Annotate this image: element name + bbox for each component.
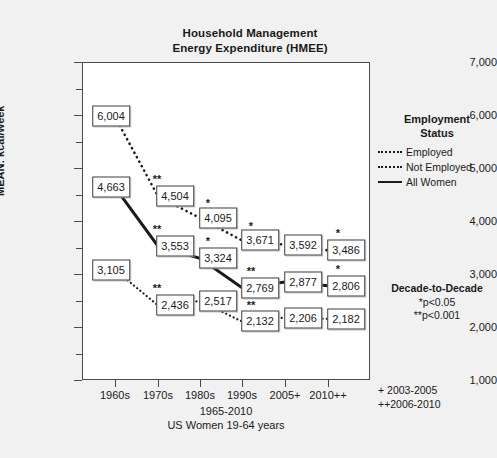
- legend-title-line-1: Employment: [378, 112, 496, 126]
- dotted-line-icon: [378, 147, 402, 158]
- significance-note-line-1: *p<0.05: [378, 296, 496, 310]
- data-label-employed-2010: 3,486: [327, 240, 365, 261]
- y-tick-mark-major: [74, 168, 82, 169]
- x-tick-mark: [285, 380, 286, 387]
- data-label-not-employed-2005: 2,206: [284, 308, 322, 329]
- chart-figure: Household Management Energy Expenditure …: [0, 0, 497, 458]
- data-label-employed-1980s: 4,095: [199, 208, 237, 229]
- legend-item-label: Not Employed: [406, 160, 472, 174]
- y-tick-label-2000: 2,000: [451, 321, 497, 333]
- legend-title-line-2: Status: [378, 126, 496, 140]
- y-tick-label-4000: 4,000: [451, 215, 497, 227]
- page-title: Household Management Energy Expenditure …: [120, 26, 380, 56]
- footnote-line-2: ++2006-2010: [378, 398, 496, 412]
- y-tick-mark-major: [74, 274, 82, 275]
- footnotes: + 2003-2005 ++2006-2010: [378, 384, 496, 411]
- data-label-all-women-1970s: 3,553: [156, 236, 194, 257]
- fine-dotted-line-icon: [378, 162, 402, 173]
- x-axis-caption-line-2: US Women 19-64 years: [82, 418, 370, 432]
- legend-item-employed[interactable]: Employed: [378, 145, 496, 159]
- significance-mark-all-women-1990s: **: [247, 266, 256, 277]
- data-label-not-employed-1980s: 2,517: [199, 291, 237, 312]
- y-tick-mark-major: [74, 62, 82, 63]
- significance-note-title: Decade-to-Decade: [378, 282, 496, 296]
- y-axis-label: MEAN: kcal/week: [0, 106, 6, 196]
- significance-mark-all-women-1980s: *: [206, 236, 210, 247]
- y-tick-mark-major: [74, 115, 82, 116]
- x-tick-mark: [115, 380, 116, 387]
- legend-item-not-employed[interactable]: Not Employed: [378, 160, 496, 174]
- y-tick-mark-major: [74, 221, 82, 222]
- footnote-line-1: + 2003-2005: [378, 384, 496, 398]
- y-tick-mark-major: [74, 380, 82, 381]
- significance-mark-employed-1990s: *: [249, 221, 253, 232]
- x-tick-mark: [328, 380, 329, 387]
- chart-title-line-2: Energy Expenditure (HMEE): [120, 41, 380, 56]
- x-tick-mark: [242, 380, 243, 387]
- chart-title-line-1: Household Management: [120, 26, 380, 41]
- legend-title: Employment Status: [378, 112, 496, 140]
- data-label-employed-1970s: 4,504: [156, 186, 194, 207]
- data-label-not-employed-1960s: 3,105: [92, 260, 130, 281]
- legend-item-label: All Women: [406, 175, 457, 189]
- data-label-all-women-1960s: 4,663: [92, 177, 130, 198]
- significance-mark-all-women-1970s: **: [153, 224, 162, 235]
- data-label-employed-1960s: 6,004: [92, 106, 130, 127]
- legend: Employment Status Employed Not Employed …: [378, 112, 496, 190]
- data-label-not-employed-1990s: 2,132: [241, 311, 279, 332]
- significance-mark-employed-1970s: **: [153, 174, 162, 185]
- x-tick-mark: [200, 380, 201, 387]
- legend-item-all-women[interactable]: All Women: [378, 175, 496, 189]
- significance-mark-not-employed-1990s: **: [247, 300, 256, 311]
- legend-item-label: Employed: [406, 145, 453, 159]
- significance-note: Decade-to-Decade *p<0.05 **p<0.001: [378, 282, 496, 323]
- significance-mark-all-women-2010: *: [336, 264, 340, 275]
- x-tick-mark: [158, 380, 159, 387]
- x-axis-caption: 1965-2010 US Women 19-64 years: [82, 404, 370, 432]
- y-tick-label-7000: 7,000: [451, 56, 497, 68]
- data-label-all-women-1990s: 2,769: [241, 278, 279, 299]
- x-tick-label-2010: 2010++: [298, 389, 358, 401]
- x-axis-caption-line-1: 1965-2010: [82, 404, 370, 418]
- data-label-not-employed-1970s: 2,436: [156, 295, 194, 316]
- significance-mark-not-employed-1970s: **: [153, 283, 162, 294]
- significance-mark-employed-2010: *: [336, 228, 340, 239]
- significance-mark-employed-1980s: *: [206, 198, 210, 209]
- solid-line-icon: [378, 177, 402, 188]
- significance-note-line-2: **p<0.001: [378, 309, 496, 323]
- data-label-employed-2005: 3,592: [284, 235, 322, 256]
- data-label-all-women-2005: 2,877: [284, 272, 322, 293]
- data-label-all-women-2010: 2,806: [327, 276, 365, 297]
- data-label-all-women-1980s: 3,324: [199, 248, 237, 269]
- y-tick-label-3000: 3,000: [451, 268, 497, 280]
- y-tick-mark-major: [74, 327, 82, 328]
- data-label-not-employed-2010: 2,182: [327, 309, 365, 330]
- data-label-employed-1990s: 3,671: [241, 230, 279, 251]
